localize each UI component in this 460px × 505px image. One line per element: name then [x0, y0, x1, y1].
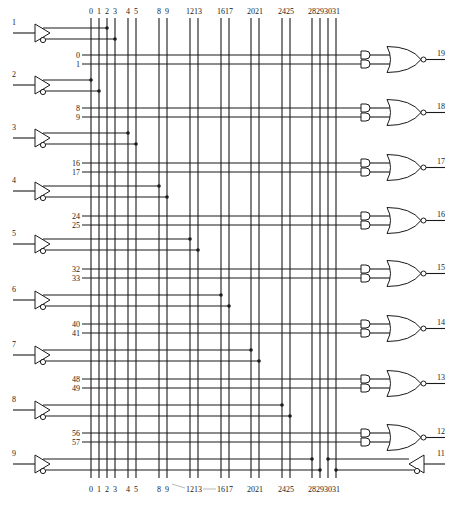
- nor-gate-icon: [387, 371, 421, 397]
- and-gate-icon: [361, 212, 370, 220]
- column-labels-top: 01234589121316172021242528293031: [89, 7, 340, 16]
- term-row-label: 24: [72, 212, 80, 221]
- connection-dot: [196, 248, 200, 252]
- inverter-bubble-icon: [421, 110, 426, 115]
- inverter-bubble-icon: [421, 381, 426, 386]
- term-row-label: 41: [72, 329, 80, 338]
- connection-dot: [89, 78, 93, 82]
- and-gate-icon: [361, 438, 370, 446]
- term-row-label: 48: [72, 375, 80, 384]
- logic-array-svg: 01234589121316172021242528293031 0123458…: [0, 0, 460, 505]
- and-gate-icon: [361, 113, 370, 121]
- column-label: 2: [105, 485, 109, 494]
- inverter-bubble-icon: [421, 271, 426, 276]
- connection-dot: [188, 237, 192, 241]
- term-row-label: 49: [72, 384, 80, 393]
- connection-dot: [227, 304, 231, 308]
- column-label: 16: [217, 7, 225, 16]
- input-pin-label: 5: [12, 229, 16, 238]
- column-label: 20: [247, 7, 255, 16]
- inverter-bubble-icon: [40, 37, 45, 42]
- input-buffer-11: 11: [326, 449, 445, 474]
- column-label: 20: [247, 485, 255, 494]
- column-label: 12: [186, 485, 194, 494]
- and-gate-icon: [361, 384, 370, 392]
- input-pin-label: 3: [12, 123, 16, 132]
- column-label: 4: [126, 7, 130, 16]
- output-pin-label: 12: [437, 427, 445, 436]
- input-buffer-3: 3: [12, 123, 138, 148]
- inverter-bubble-icon: [40, 304, 45, 309]
- inverter-bubble-icon: [40, 414, 45, 419]
- input-pin-label: 9: [12, 449, 16, 458]
- column-label: 21: [255, 485, 263, 494]
- input-buffer-2: 2: [12, 70, 101, 95]
- output-pin-label: 13: [437, 373, 445, 382]
- input-buffer-5: 5: [12, 229, 200, 254]
- column-label: 31: [332, 485, 340, 494]
- column-label: 16: [217, 485, 225, 494]
- column-label: 21: [255, 7, 263, 16]
- input-pin-label: 1: [12, 18, 16, 27]
- connection-dot: [280, 403, 284, 407]
- term-row-label: 9: [76, 113, 80, 122]
- nor-gate-icon: [387, 208, 421, 234]
- connection-dot: [334, 468, 338, 472]
- column-label: 28: [308, 485, 316, 494]
- connection-dot: [318, 468, 322, 472]
- inverter-bubble-icon: [40, 195, 45, 200]
- nor-gate-icon: [387, 425, 421, 451]
- connection-dot: [249, 348, 253, 352]
- column-label: 0: [89, 7, 93, 16]
- column-label: 3: [113, 485, 117, 494]
- output-macrocell-19: 0119: [76, 47, 445, 73]
- column-label: 31: [332, 7, 340, 16]
- column-label: 5: [134, 7, 138, 16]
- input-pin-label: 6: [12, 285, 16, 294]
- column-label: 13: [194, 7, 202, 16]
- input-pin-label: 7: [12, 340, 16, 349]
- nor-gate-icon: [387, 100, 421, 126]
- and-gate-icon: [361, 320, 370, 328]
- connection-dot: [134, 142, 138, 146]
- and-gate-icon: [361, 159, 370, 167]
- term-row-label: 56: [72, 429, 80, 438]
- and-gate-icon: [361, 51, 370, 59]
- column-label: 1: [97, 485, 101, 494]
- column-label: 3: [113, 7, 117, 16]
- column-label: 24: [278, 485, 286, 494]
- term-row-label: 8: [76, 104, 80, 113]
- column-label: 17: [225, 485, 233, 494]
- connection-dot: [326, 457, 330, 461]
- column-label: 9: [165, 7, 169, 16]
- column-label: 28: [308, 7, 316, 16]
- and-gate-icon: [361, 168, 370, 176]
- inverter-bubble-icon: [40, 89, 45, 94]
- column-label: 8: [157, 485, 161, 494]
- and-gate-icon: [361, 104, 370, 112]
- term-row-label: 57: [72, 438, 80, 447]
- inverter-bubble-icon: [40, 142, 45, 147]
- inverter-bubble-icon: [421, 57, 426, 62]
- input-pin-label: 8: [12, 395, 16, 404]
- term-row-label: 16: [72, 159, 80, 168]
- inverter-bubble-icon: [40, 248, 45, 253]
- term-row-label: 1: [76, 60, 80, 69]
- output-macrocell-18: 8918: [76, 100, 445, 126]
- connection-dot: [310, 457, 314, 461]
- and-gate-icon: [361, 265, 370, 273]
- column-labels-bottom: 01234589121316172021242528293031: [89, 484, 340, 494]
- connection-dot: [126, 131, 130, 135]
- column-label: 25: [286, 7, 294, 16]
- column-label: 5: [134, 485, 138, 494]
- connection-dot: [105, 26, 109, 30]
- term-row-label: 17: [72, 168, 80, 177]
- column-label: 4: [126, 485, 130, 494]
- output-pin-label: 19: [437, 49, 445, 58]
- inverter-bubble-icon: [40, 359, 45, 364]
- column-label: 8: [157, 7, 161, 16]
- and-gate-icon: [361, 274, 370, 282]
- term-row-label: 40: [72, 320, 80, 329]
- nor-gate-icon: [387, 316, 421, 342]
- column-label: 2: [105, 7, 109, 16]
